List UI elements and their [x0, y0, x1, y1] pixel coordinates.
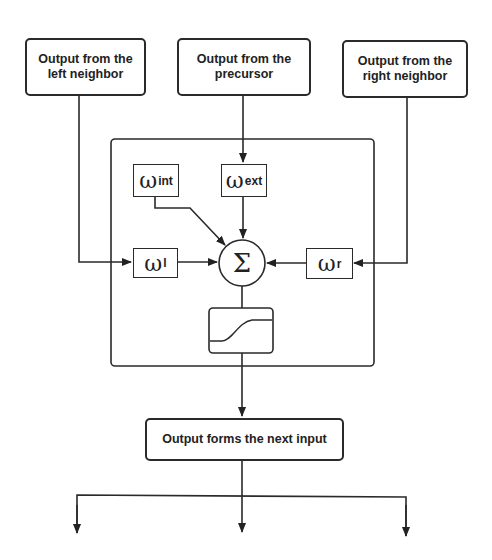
weight-internal: ωint	[133, 164, 179, 197]
input-precursor-label: Output from the precursor	[179, 52, 309, 82]
omega-symbol: ω	[318, 251, 336, 276]
weight-subscript: ext	[245, 174, 262, 188]
input-right-neighbor: Output from the right neighbor	[342, 40, 468, 98]
input-left-neighbor-label: Output from the left neighbor	[27, 52, 144, 82]
weight-right: ωr	[306, 248, 353, 279]
omega-symbol: ω	[226, 168, 244, 193]
sigmoid-icon	[209, 308, 273, 353]
weight-left: ωl	[133, 248, 178, 278]
weight-subscript: r	[337, 257, 342, 271]
weight-subscript: int	[158, 174, 173, 188]
input-left-neighbor: Output from the left neighbor	[25, 38, 146, 96]
sigma-icon: Σ	[219, 240, 265, 286]
input-right-neighbor-label: Output from the right neighbor	[344, 54, 466, 84]
weight-external: ωext	[221, 164, 267, 197]
input-precursor: Output from the precursor	[177, 38, 311, 96]
output-label: Output forms the next input	[162, 432, 327, 447]
weight-subscript: l	[163, 256, 166, 270]
omega-symbol: ω	[139, 168, 157, 193]
output-box: Output forms the next input	[145, 418, 344, 461]
omega-symbol: ω	[144, 251, 162, 276]
